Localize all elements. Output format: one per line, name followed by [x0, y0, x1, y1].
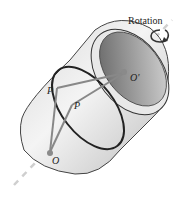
label-p-lower: P: [74, 101, 80, 111]
point-o-prime: [121, 69, 127, 75]
label-rotation: Rotation: [128, 16, 162, 26]
label-p-upper: P: [47, 86, 53, 96]
rotating-cup-diagram: [0, 0, 190, 198]
label-o-prime: O': [130, 73, 139, 83]
label-o: O: [52, 156, 59, 166]
